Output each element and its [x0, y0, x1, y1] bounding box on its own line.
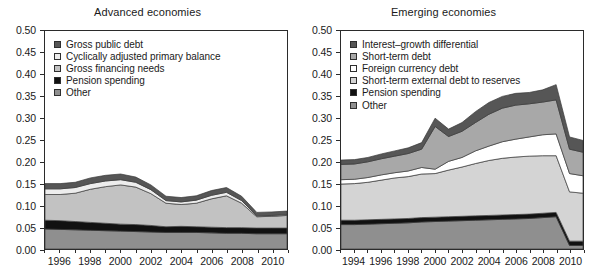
- y-axis-tick-mark: [40, 162, 44, 163]
- legend-item: Cyclically adjusted primary balance: [54, 50, 220, 62]
- legend-swatch-icon: [54, 65, 61, 72]
- legend-label: Short-term debt: [362, 51, 431, 62]
- y-axis-tick-mark: [336, 184, 340, 185]
- x-axis-tick-mark: [197, 250, 198, 253]
- legend-swatch-icon: [350, 77, 357, 84]
- x-axis-tick-mark: [503, 250, 504, 253]
- y-axis-tick-label: 0.35: [302, 90, 332, 102]
- y-axis-tick-label: 0.10: [6, 200, 36, 212]
- legend-item: Short-term external debt to reserves: [350, 75, 520, 87]
- legend-swatch-icon: [54, 53, 61, 60]
- x-axis-tick-label: 2010: [550, 255, 590, 267]
- x-axis-tick-mark: [516, 250, 517, 253]
- legend-label: Foreign currency debt: [362, 63, 458, 74]
- legend-swatch-icon: [350, 102, 357, 109]
- x-axis-tick-mark: [59, 250, 60, 253]
- y-axis-tick-mark: [40, 184, 44, 185]
- y-axis-tick-label: 0.15: [302, 178, 332, 190]
- y-axis-tick-mark: [336, 30, 340, 31]
- x-axis-tick-mark: [354, 250, 355, 253]
- chart-title-advanced: Advanced economies: [0, 6, 295, 18]
- x-axis-tick-mark: [435, 250, 436, 253]
- y-axis-tick-mark: [40, 96, 44, 97]
- x-axis-tick-mark: [476, 250, 477, 253]
- y-axis-tick-mark: [336, 96, 340, 97]
- legend-item: Gross financing needs: [54, 62, 220, 74]
- y-axis-tick-mark: [40, 118, 44, 119]
- x-axis-tick-mark: [448, 250, 449, 253]
- legend-swatch-icon: [54, 77, 61, 84]
- legend-label: Other: [362, 100, 387, 111]
- x-axis-tick-mark: [462, 250, 463, 253]
- x-axis-tick-mark: [44, 250, 45, 253]
- y-axis-tick-mark: [336, 52, 340, 53]
- legend-swatch-icon: [350, 53, 357, 60]
- x-axis-tick-mark: [408, 250, 409, 253]
- legend-emerging: Interest–growth differentialShort-term d…: [350, 38, 520, 111]
- x-axis-tick-mark: [557, 250, 558, 253]
- y-axis-tick-label: 0.20: [6, 156, 36, 168]
- legend-label: Other: [66, 87, 91, 98]
- legend-swatch-icon: [54, 89, 61, 96]
- x-axis-tick-mark: [227, 250, 228, 253]
- x-axis-tick-mark: [181, 250, 182, 253]
- y-axis-tick-label: 0.20: [302, 156, 332, 168]
- y-axis-tick-label: 0.15: [6, 178, 36, 190]
- y-axis-tick-mark: [336, 140, 340, 141]
- legend-label: Interest–growth differential: [362, 39, 478, 50]
- x-axis-tick-mark: [258, 250, 259, 253]
- legend-advanced: Gross public debtCyclically adjusted pri…: [54, 38, 220, 99]
- x-axis-tick-mark: [584, 250, 585, 253]
- legend-swatch-icon: [54, 41, 61, 48]
- y-axis-tick-mark: [336, 162, 340, 163]
- panel-emerging-economies: Emerging economies Interest–growth diffe…: [296, 0, 591, 277]
- y-axis-tick-label: 0.30: [302, 112, 332, 124]
- x-axis-tick-mark: [166, 250, 167, 253]
- x-axis-tick-label: 2010: [253, 255, 293, 267]
- y-axis-tick-mark: [40, 140, 44, 141]
- legend-item: Other: [350, 99, 520, 111]
- legend-item: Interest–growth differential: [350, 38, 520, 50]
- x-axis-tick-mark: [136, 250, 137, 253]
- y-axis-tick-label: 0.00: [302, 244, 332, 256]
- y-axis-tick-label: 0.45: [6, 46, 36, 58]
- legend-item: Foreign currency debt: [350, 62, 520, 74]
- legend-swatch-icon: [350, 41, 357, 48]
- y-axis-tick-label: 0.40: [6, 68, 36, 80]
- legend-item: Short-term debt: [350, 50, 520, 62]
- legend-item: Pension spending: [350, 87, 520, 99]
- x-axis-tick-mark: [421, 250, 422, 253]
- y-axis-tick-label: 0.50: [302, 24, 332, 36]
- x-axis-tick-mark: [381, 250, 382, 253]
- chart-title-emerging: Emerging economies: [296, 6, 591, 18]
- x-axis-tick-mark: [212, 250, 213, 253]
- y-axis-tick-mark: [40, 30, 44, 31]
- x-axis-tick-mark: [273, 250, 274, 253]
- x-axis-tick-mark: [90, 250, 91, 253]
- y-axis-tick-label: 0.40: [302, 68, 332, 80]
- legend-label: Pension spending: [66, 75, 145, 86]
- x-axis-tick-mark: [120, 250, 121, 253]
- y-axis-tick-mark: [40, 228, 44, 229]
- legend-label: Pension spending: [362, 87, 441, 98]
- x-axis-tick-mark: [570, 250, 571, 253]
- y-axis-tick-label: 0.25: [6, 134, 36, 146]
- y-axis-tick-mark: [336, 118, 340, 119]
- y-axis-tick-mark: [40, 74, 44, 75]
- legend-label: Short-term external debt to reserves: [362, 75, 520, 86]
- y-axis-tick-mark: [336, 206, 340, 207]
- x-axis-tick-mark: [340, 250, 341, 253]
- x-axis-tick-mark: [105, 250, 106, 253]
- x-axis-tick-mark: [367, 250, 368, 253]
- x-axis-tick-mark: [489, 250, 490, 253]
- y-axis-tick-mark: [336, 74, 340, 75]
- panel-advanced-economies: Advanced economies Gross public debtCycl…: [0, 0, 295, 277]
- x-axis-tick-mark: [530, 250, 531, 253]
- legend-swatch-icon: [350, 65, 357, 72]
- y-axis-tick-label: 0.10: [302, 200, 332, 212]
- y-axis-tick-label: 0.35: [6, 90, 36, 102]
- y-axis-tick-label: 0.50: [6, 24, 36, 36]
- y-axis-tick-label: 0.00: [6, 244, 36, 256]
- y-axis-tick-mark: [40, 206, 44, 207]
- y-axis-tick-label: 0.45: [302, 46, 332, 58]
